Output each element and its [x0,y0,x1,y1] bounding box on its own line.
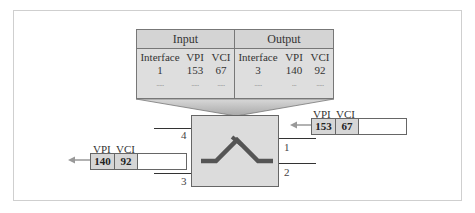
outgoing-arrow-icon [68,155,92,165]
port-1-line [279,138,316,139]
incoming-vpi-value: 153 [312,119,336,134]
port-2-line [279,163,316,164]
port-3-label: 3 [181,175,187,187]
incoming-cell: 153 67 [311,118,407,135]
atm-switch [191,115,279,187]
switch-fabric-icon [192,116,280,188]
outgoing-vpi-value: 140 [91,154,115,169]
port-2-label: 2 [284,166,290,178]
port-4-label: 4 [181,129,187,141]
port-3-line [154,173,191,174]
port-1-label: 1 [284,141,290,153]
outgoing-vci-value: 92 [115,154,138,169]
incoming-vci-value: 67 [336,119,359,134]
incoming-arrow-icon [290,120,312,130]
outgoing-cell: 140 92 [90,153,187,170]
